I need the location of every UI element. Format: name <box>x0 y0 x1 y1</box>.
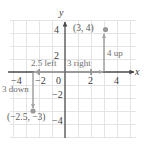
move-label-4-up: 4 up <box>107 49 123 58</box>
x-tick-neg2: −2 <box>35 76 46 86</box>
y-tick-4: 4 <box>54 25 59 35</box>
coordinate-plane-figure: y x 4 2 −2 −4 −4 −2 2 4 0 (3, 4) (−2.5, … <box>0 0 144 146</box>
coordinate-plane-svg <box>0 0 144 146</box>
origin-label: 0 <box>56 76 61 86</box>
move-label-3-down: 3 down <box>2 85 29 94</box>
point-label-3-4: (3, 4) <box>73 24 94 34</box>
x-axis-label: x <box>135 67 139 77</box>
y-tick-neg2: −2 <box>52 90 63 100</box>
y-tick-neg4: −4 <box>52 116 63 126</box>
point-3-4 <box>103 27 108 32</box>
point-label-neg2point5-neg3: (−2.5, −3) <box>7 113 45 123</box>
x-tick-2: 2 <box>88 76 93 86</box>
move-label-3-right: 3 right <box>67 59 91 68</box>
y-axis-label: y <box>59 8 63 18</box>
move-label-2point5-left: 2.5 left <box>31 59 57 68</box>
x-tick-4: 4 <box>114 76 119 86</box>
